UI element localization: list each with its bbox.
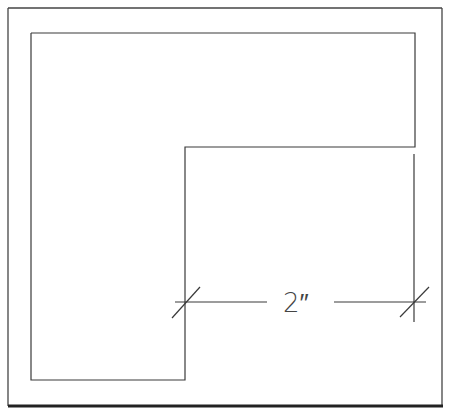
l-shape-outline <box>31 33 415 380</box>
dimension-label: 2″ <box>283 288 309 318</box>
drawing-frame <box>8 8 443 406</box>
cad-drawing: 2″ <box>0 0 450 411</box>
